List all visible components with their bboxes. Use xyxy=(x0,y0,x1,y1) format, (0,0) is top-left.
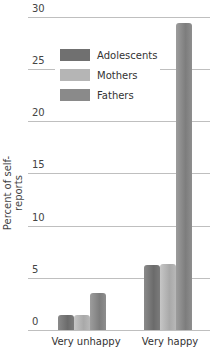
y-tick-10: 10 xyxy=(32,212,45,223)
legend-label: Adolescents xyxy=(97,50,157,61)
legend-item-fathers: Fathers xyxy=(60,85,157,105)
legend-item-adolescents: Adolescents xyxy=(60,45,157,65)
bar-very-happy-fathers xyxy=(176,23,192,330)
y-tick-20: 20 xyxy=(32,107,45,118)
y-tick-0: 0 xyxy=(32,316,38,327)
bar-very-unhappy-fathers xyxy=(90,293,106,330)
y-tick-5: 5 xyxy=(32,264,38,275)
legend-label: Fathers xyxy=(97,90,134,101)
gridline-0 xyxy=(28,330,210,331)
bar-very-unhappy-adolescents xyxy=(58,315,74,330)
legend-item-mothers: Mothers xyxy=(60,65,157,85)
bar-very-unhappy-mothers xyxy=(74,315,90,330)
y-tick-30: 30 xyxy=(32,3,45,14)
bar-very-happy-adolescents xyxy=(144,265,160,330)
gridline-30 xyxy=(28,17,210,18)
legend: Adolescents Mothers Fathers xyxy=(60,45,157,105)
y-tick-25: 25 xyxy=(32,55,45,66)
legend-swatch-adolescents xyxy=(60,49,90,61)
legend-swatch-mothers xyxy=(60,69,90,81)
gridline-25 xyxy=(28,69,55,70)
legend-swatch-fathers xyxy=(60,89,90,101)
y-tick-15: 15 xyxy=(32,159,45,170)
legend-label: Mothers xyxy=(97,70,137,81)
y-axis-label: Percent of self-reports xyxy=(2,138,24,248)
bar-very-happy-mothers xyxy=(160,264,176,330)
x-label-very-unhappy: Very unhappy xyxy=(48,336,124,347)
x-label-very-happy: Very happy xyxy=(138,336,202,347)
